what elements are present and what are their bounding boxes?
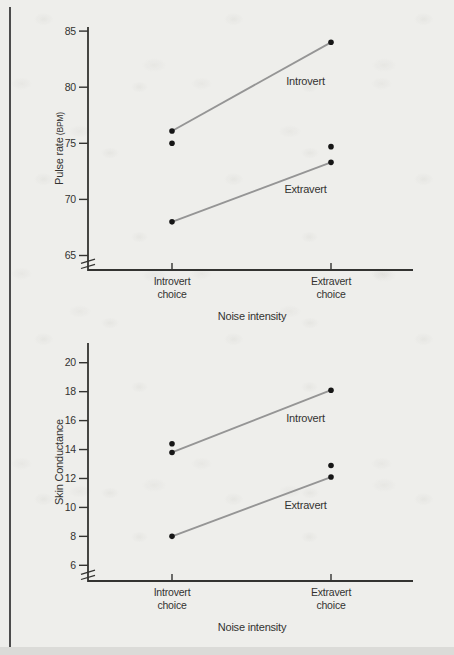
x-category-label: Introvertchoice [154, 586, 191, 612]
data-point-extravert [169, 534, 175, 540]
data-point-extra [328, 144, 334, 150]
data-point-extra [328, 463, 334, 469]
data-point-extravert [169, 219, 175, 225]
x-axis-title: Noise intensity [218, 621, 287, 633]
axes-lines [88, 27, 413, 270]
y-tick-label: 8 [70, 530, 76, 542]
y-tick-label: 75 [65, 137, 77, 149]
figure-interaction-plots: 6570758085IntrovertchoiceExtravertchoice… [0, 0, 454, 655]
axes-lines [88, 343, 413, 581]
textbook-page: 6570758085IntrovertchoiceExtravertchoice… [0, 0, 454, 655]
series-label-extravert: Extravert [284, 183, 326, 195]
data-point-extravert [328, 160, 334, 166]
data-point-introvert [328, 387, 334, 393]
data-point-extravert [328, 474, 334, 480]
y-tick-label: 14 [65, 443, 77, 455]
x-category-label: Extravertchoice [311, 275, 351, 301]
y-axis-title: Skin Conductance [53, 419, 65, 505]
y-axis-title: Pulse rate (BPM) [53, 112, 65, 185]
chart-pulse-rate: 6570758085IntrovertchoiceExtravertchoice… [53, 25, 414, 322]
y-tick-label: 70 [65, 193, 77, 205]
y-tick-label: 65 [65, 249, 77, 261]
y-tick-label: 18 [65, 385, 77, 397]
data-point-extra [169, 441, 175, 447]
y-tick-label: 10 [65, 501, 77, 513]
x-category-label: Extravertchoice [311, 586, 351, 612]
series-label-introvert: Introvert [286, 75, 325, 87]
y-tick-label: 85 [65, 25, 77, 37]
series-label-extravert: Extravert [284, 499, 326, 511]
y-tick-label: 12 [65, 472, 77, 484]
data-point-introvert [169, 128, 175, 134]
y-tick-label: 80 [65, 81, 77, 93]
chart-skin-conductance: 68101214161820IntrovertchoiceExtravertch… [53, 343, 414, 633]
y-tick-label: 20 [65, 356, 77, 368]
series-label-introvert: Introvert [286, 412, 325, 424]
x-category-label: Introvertchoice [154, 275, 191, 301]
x-axis-title: Noise intensity [218, 310, 287, 322]
data-point-extra [169, 141, 175, 147]
data-point-introvert [328, 40, 334, 46]
y-tick-label: 16 [65, 414, 77, 426]
data-point-introvert [169, 450, 175, 456]
y-tick-label: 6 [70, 559, 76, 571]
